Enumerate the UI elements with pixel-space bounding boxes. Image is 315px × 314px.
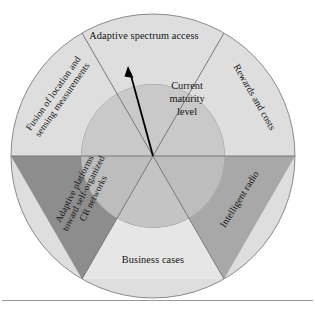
maturity-wheel-figure: Adaptive spectrum access Rewards and cos… [0, 0, 315, 314]
caption-divider [2, 300, 313, 301]
caption-text [3, 303, 303, 312]
wheel-diagram [0, 0, 315, 314]
